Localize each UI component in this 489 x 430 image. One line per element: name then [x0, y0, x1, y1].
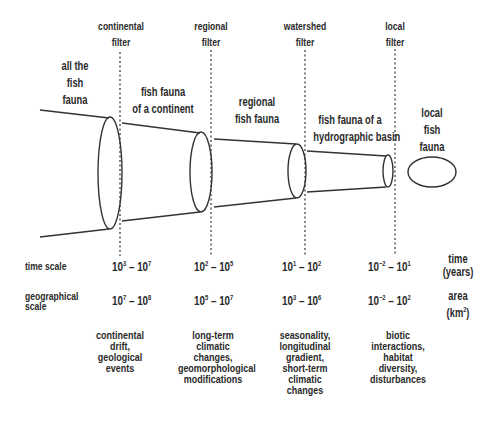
geo-scale-value-regional: 105 – 107 — [194, 294, 233, 308]
unit-line: (km2) — [442, 303, 473, 320]
unit-line: (years) — [442, 266, 473, 279]
filter-label-line: filter — [92, 36, 150, 48]
range-dash: – — [129, 294, 134, 308]
geo-scale-value-watershed: 103 – 106 — [282, 294, 321, 308]
value-exponent: 7 — [148, 260, 151, 267]
local-fish-fauna-ellipse — [408, 157, 456, 187]
value-base: 10 — [137, 260, 148, 274]
range-dash: – — [211, 294, 216, 308]
fauna-label-line: fish fauna of a — [313, 112, 386, 129]
unit-text: (km — [447, 306, 464, 320]
local-filter-label: local filter — [366, 20, 424, 48]
value-base: 10 — [368, 260, 379, 274]
value-exponent: 5 — [205, 294, 208, 301]
range-dash: – — [299, 294, 304, 308]
fauna-label-line: local — [416, 105, 447, 122]
filter-label-line: filter — [182, 36, 240, 48]
label-line: scale — [25, 301, 78, 311]
time-scale-label: time scale — [25, 260, 66, 272]
driver-line: changes — [271, 385, 338, 396]
fauna-label-line: hydrographic basin — [313, 129, 386, 146]
fauna-label-line: of a continent — [132, 101, 194, 118]
value-base: 10 — [219, 294, 230, 308]
range-dash: – — [211, 260, 216, 274]
time-scale-value-regional: 102 – 105 — [194, 260, 233, 274]
value-exponent: 8 — [148, 294, 151, 301]
filter-label-line: local — [366, 20, 424, 32]
value-exponent: 5 — [230, 260, 233, 267]
time-scale-value-local: 10−2 – 101 — [368, 260, 411, 274]
all-fish-fauna-label: all the fish fauna — [48, 58, 103, 109]
continental-filter-ellipse — [98, 117, 122, 229]
driver-line: modifications — [178, 374, 248, 385]
hydrographic-basin-fish-fauna-label: fish fauna of a hydrographic basin — [313, 112, 386, 146]
geo-scale-value-continental: 107 – 108 — [112, 294, 151, 308]
value-exponent: −2 — [379, 260, 386, 267]
value-base: 10 — [307, 294, 318, 308]
geographical-scale-label: geographical scale — [25, 291, 78, 311]
area-unit-label: area (km2) — [442, 290, 473, 320]
filter-label-line: filter — [366, 36, 424, 48]
regional-filter-label: regional filter — [182, 20, 240, 48]
fauna-label-line: all the — [48, 58, 103, 75]
fauna-label-line: regional — [230, 94, 285, 111]
value-base: 10 — [307, 260, 318, 274]
time-unit-label: time (years) — [442, 253, 473, 279]
continental-filter-label: continental filter — [92, 20, 150, 48]
watershed-drivers-text: seasonality, longitudinal gradient, shor… — [271, 330, 338, 396]
local-fish-fauna-label: local fish fauna — [416, 105, 447, 156]
local-drivers-text: biotic interactions, habitat diversity, … — [364, 330, 431, 385]
value-base: 10 — [368, 294, 379, 308]
value-exponent: 3 — [123, 260, 126, 267]
geo-scale-value-local: 10−2 – 102 — [368, 294, 411, 308]
value-exponent: 3 — [293, 294, 296, 301]
range-dash: – — [388, 294, 393, 308]
driver-line: disturbances — [364, 374, 431, 385]
watershed-filter-label: watershed filter — [276, 20, 334, 48]
value-exponent: 6 — [318, 294, 321, 301]
filter-dotted-lines — [120, 49, 395, 256]
range-dash: – — [129, 260, 134, 274]
continental-drivers-text: continental drift, geological events — [87, 330, 153, 374]
fauna-label-line: fish — [48, 75, 103, 92]
fauna-label-line: fauna — [416, 139, 447, 156]
regional-drivers-text: long-term climatic changes, geomorpholog… — [178, 330, 248, 385]
value-base: 10 — [112, 260, 123, 274]
range-dash: – — [299, 260, 304, 274]
value-exponent: 2 — [318, 260, 321, 267]
value-base: 10 — [282, 294, 293, 308]
fauna-label-line: fish fauna — [230, 111, 285, 128]
continent-fish-fauna-label: fish fauna of a continent — [132, 84, 194, 118]
filter-label-line: watershed — [276, 20, 334, 32]
driver-line: events — [87, 363, 153, 374]
regional-filter-ellipse — [190, 132, 212, 212]
watershed-filter-ellipse — [288, 144, 306, 198]
time-scale-value-continental: 103 – 107 — [112, 260, 151, 274]
filter-label-line: regional — [182, 20, 240, 32]
unit-line: area — [442, 290, 473, 303]
value-base: 10 — [112, 294, 123, 308]
value-exponent: 1 — [407, 260, 410, 267]
value-base: 10 — [194, 260, 205, 274]
value-exponent: 2 — [205, 260, 208, 267]
time-scale-value-watershed: 101 – 102 — [282, 260, 321, 274]
value-base: 10 — [194, 294, 205, 308]
value-exponent: 1 — [293, 260, 296, 267]
value-exponent: 2 — [407, 294, 410, 301]
local-filter-ellipse — [383, 155, 393, 187]
fauna-label-line: fish — [416, 122, 447, 139]
value-base: 10 — [396, 294, 407, 308]
value-exponent: 7 — [123, 294, 126, 301]
value-exponent: −2 — [379, 294, 386, 301]
value-base: 10 — [219, 260, 230, 274]
fauna-label-line: fish fauna — [132, 84, 194, 101]
filter-label-line: filter — [276, 36, 334, 48]
value-base: 10 — [137, 294, 148, 308]
range-dash: – — [388, 260, 393, 274]
value-exponent: 7 — [230, 294, 233, 301]
fauna-label-line: fauna — [48, 92, 103, 109]
unit-text: ) — [466, 306, 469, 320]
filter-label-line: continental — [92, 20, 150, 32]
value-base: 10 — [396, 260, 407, 274]
regional-fish-fauna-label: regional fish fauna — [230, 94, 285, 128]
